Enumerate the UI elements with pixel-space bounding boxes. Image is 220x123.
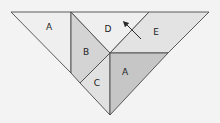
piece-label-e: E (153, 27, 159, 37)
tangram-diagram: ABDECA (0, 0, 220, 123)
piece-label-a-right: A (122, 67, 129, 77)
diagram-canvas: ABDECA (0, 0, 220, 123)
piece-label-c: C (94, 78, 100, 88)
piece-label-d: D (105, 24, 112, 34)
piece-label-a-left: A (46, 22, 53, 32)
piece-a-right (110, 53, 168, 115)
piece-a-left (11, 12, 71, 73)
piece-label-b: B (83, 47, 89, 57)
